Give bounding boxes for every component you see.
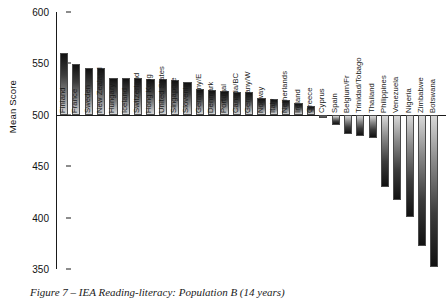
category-label: Norway (256, 87, 265, 113)
category-label: New Zealand (95, 67, 104, 113)
y-tick-label: 450 (15, 161, 49, 172)
bar (430, 115, 438, 267)
category-label: Belgium/Fr (342, 75, 351, 113)
category-label: Slovenia (181, 83, 190, 113)
category-label: Finland (58, 87, 67, 113)
category-label: Canada/BC (231, 73, 240, 113)
category-label: Netherlands (280, 71, 289, 113)
bar (406, 115, 414, 217)
category-label: Hong Kong (144, 74, 153, 113)
category-label: Cyprus (317, 88, 326, 113)
y-tick-label: 550 (15, 58, 49, 69)
bar (381, 115, 389, 187)
category-label: Singapore (169, 77, 178, 113)
category-label: Switzerland (132, 73, 141, 113)
category-label: United States (157, 66, 166, 113)
category-label: Spain (330, 93, 339, 113)
bar (418, 115, 426, 247)
category-label: Denmark (206, 81, 215, 113)
category-label: Germany/W (243, 72, 252, 113)
category-label: Italy (268, 99, 277, 113)
category-label: Iceland (120, 88, 129, 113)
y-tick-label: 400 (15, 212, 49, 223)
category-label: Greece (305, 87, 314, 113)
bar (319, 115, 327, 118)
category-label: Portugal (219, 84, 228, 113)
category-label: Germany/E (194, 74, 203, 113)
category-label: Nigeria (404, 88, 413, 113)
y-axis-ticks: 350400450500550600 (15, 0, 49, 299)
bar (393, 115, 401, 200)
bar (369, 115, 377, 139)
category-label: Hungary (107, 84, 116, 113)
bar (356, 115, 364, 137)
y-tick-label: 600 (15, 7, 49, 18)
category-label: Venezuela (391, 77, 400, 113)
category-label: Ireland (293, 89, 302, 113)
bar-series: FinlandFranceSwedenNew ZealandHungaryIce… (56, 0, 446, 299)
category-label: Sweden (83, 85, 92, 113)
y-tick-label: 500 (15, 109, 49, 120)
category-label: Trinidad/Tobago (354, 57, 363, 113)
figure-caption: Figure 7 – IEA Reading-literacy: Populat… (30, 286, 285, 298)
category-label: Philippines (379, 75, 388, 113)
y-tick-label: 350 (15, 264, 49, 275)
category-label: Botswana (428, 79, 437, 113)
bar (344, 115, 352, 135)
figure-container: Mean Score 350400450500550600 FinlandFra… (0, 0, 447, 299)
category-label: France (70, 89, 79, 113)
bar (332, 115, 340, 125)
category-label: Thailand (367, 83, 376, 113)
category-label: Zimbabwe (416, 77, 425, 113)
